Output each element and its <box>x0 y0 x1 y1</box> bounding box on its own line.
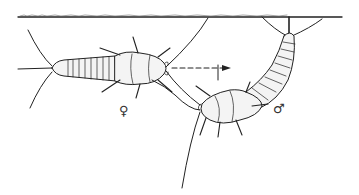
substrate-line <box>18 15 342 17</box>
illustration <box>0 0 359 195</box>
movement-arrow <box>172 65 231 80</box>
female-silverfish <box>18 18 208 108</box>
male-silverfish <box>152 17 322 188</box>
female-symbol: ♀ <box>119 104 129 117</box>
male-symbol: ♂ <box>273 102 285 115</box>
